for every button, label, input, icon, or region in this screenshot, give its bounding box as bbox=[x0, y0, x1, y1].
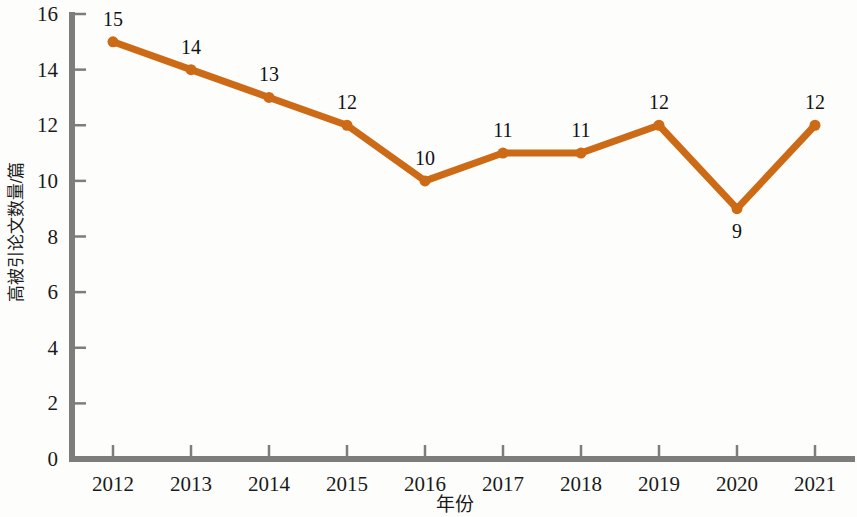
x-axis-tick-label: 2012 bbox=[92, 472, 134, 496]
x-axis-tick-label: 2019 bbox=[638, 472, 680, 496]
data-point-label: 11 bbox=[493, 119, 512, 141]
x-axis-tick-label: 2014 bbox=[248, 472, 291, 496]
data-point-label: 12 bbox=[649, 91, 669, 113]
y-axis-tick-label: 2 bbox=[48, 391, 59, 415]
x-axis-tick-label: 2016 bbox=[404, 472, 446, 496]
data-point-label: 11 bbox=[571, 119, 590, 141]
data-point-marker[interactable] bbox=[576, 148, 587, 159]
x-axis-tick-label: 2015 bbox=[326, 472, 368, 496]
data-point-label: 15 bbox=[103, 8, 123, 30]
y-axis-tick-label: 12 bbox=[37, 113, 58, 137]
x-axis-tick-label: 2021 bbox=[794, 472, 836, 496]
y-axis-tick-label: 4 bbox=[48, 336, 59, 360]
data-point-marker[interactable] bbox=[498, 148, 509, 159]
y-axis-tick-label: 16 bbox=[37, 2, 58, 26]
chart-canvas: 0246810121416201220132014201520162017201… bbox=[0, 0, 857, 517]
data-point-marker[interactable] bbox=[186, 64, 197, 75]
y-axis-tick-label: 6 bbox=[48, 280, 59, 304]
y-axis-tick-label: 8 bbox=[48, 225, 59, 249]
data-series-line bbox=[113, 42, 815, 209]
data-point-label: 9 bbox=[732, 220, 742, 242]
data-point-marker[interactable] bbox=[654, 120, 665, 131]
x-axis-tick-label: 2020 bbox=[716, 472, 758, 496]
y-axis-tick-label: 14 bbox=[37, 58, 59, 82]
data-point-marker[interactable] bbox=[342, 120, 353, 131]
data-point-label: 10 bbox=[415, 147, 435, 169]
x-axis-tick-label: 2018 bbox=[560, 472, 602, 496]
data-point-label: 13 bbox=[259, 63, 279, 85]
y-axis-tick-label: 10 bbox=[37, 169, 58, 193]
data-point-marker[interactable] bbox=[810, 120, 821, 131]
data-point-marker[interactable] bbox=[264, 92, 275, 103]
data-point-marker[interactable] bbox=[108, 36, 119, 47]
line-chart: 0246810121416201220132014201520162017201… bbox=[0, 0, 857, 517]
data-point-marker[interactable] bbox=[420, 175, 431, 186]
data-point-label: 14 bbox=[181, 36, 201, 58]
data-point-label: 12 bbox=[337, 91, 357, 113]
data-point-label: 12 bbox=[805, 91, 825, 113]
x-axis-tick-label: 2013 bbox=[170, 472, 212, 496]
y-axis-tick-label: 0 bbox=[48, 447, 59, 471]
y-axis-title: 高被引论文数量/篇 bbox=[7, 162, 26, 303]
data-point-marker[interactable] bbox=[732, 203, 743, 214]
x-axis-tick-label: 2017 bbox=[482, 472, 524, 496]
x-axis-title: 年份 bbox=[436, 494, 474, 515]
